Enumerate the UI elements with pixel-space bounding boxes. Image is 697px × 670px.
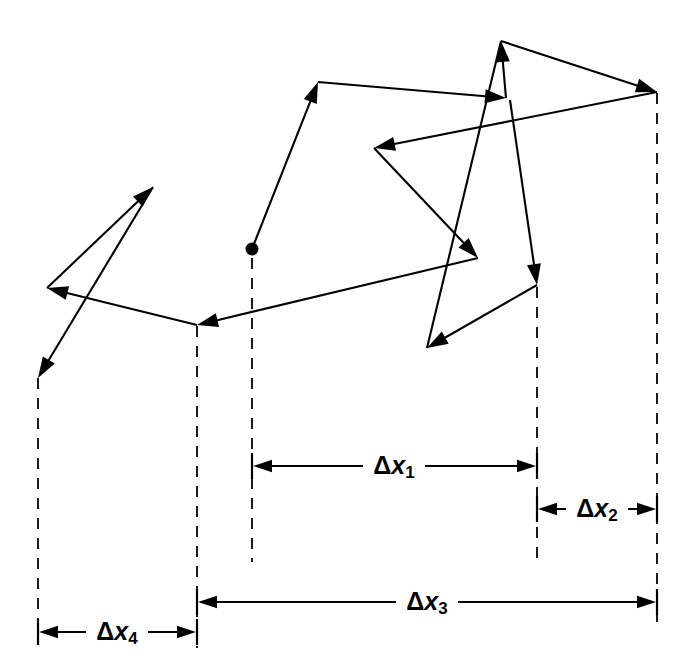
walk-segment-7-arrowhead: [197, 313, 219, 327]
dimension-delta-x4-label-delta: Δ: [96, 617, 114, 645]
walk-segment-12: [435, 285, 537, 344]
dimension-delta-x2-label-sub: 2: [608, 506, 617, 525]
walk-segment-7: [206, 258, 478, 323]
walk-segment-1: [252, 90, 315, 249]
random-walk-diagram: Δx1Δx2Δx3Δx4: [0, 0, 697, 670]
walk-segment-6: [374, 148, 472, 251]
walk-segment-10-arrowhead: [38, 356, 55, 378]
walk-segment-1-arrowhead: [304, 82, 318, 104]
dimension-delta-x3-label-sub: 3: [438, 599, 447, 618]
dimension-delta-x4-label: Δx4: [96, 617, 138, 649]
walk-segment-11: [510, 100, 536, 276]
dimension-delta-x4-label-sub: 4: [128, 629, 138, 648]
walk-segment-2: [318, 82, 497, 97]
dimension-delta-x2-label-delta: Δ: [576, 494, 594, 522]
dimension-labels-group: Δx1Δx2Δx3Δx4: [96, 451, 617, 649]
random-walk-path-group: [38, 41, 657, 378]
walk-segment-9: [47, 193, 146, 288]
walk-segment-4-arrowhead: [635, 79, 657, 92]
walk-segment-11-arrowhead: [527, 263, 541, 285]
walk-segment-13: [427, 41, 501, 348]
dimension-delta-x2-label-var: x: [592, 494, 609, 522]
figure-container: Δx1Δx2Δx3Δx4: [0, 0, 697, 670]
walk-segment-5: [383, 92, 657, 146]
dimension-lines-group: [38, 453, 657, 645]
walk-segment-10: [43, 187, 153, 370]
start-point-marker: [246, 243, 259, 256]
dimension-delta-x3-label-var: x: [422, 587, 439, 615]
dimension-delta-x1-label-var: x: [389, 451, 406, 479]
walk-segment-4: [501, 41, 648, 89]
dimension-delta-x1-arrowhead-left: [253, 460, 272, 472]
dimension-delta-x1-label-delta: Δ: [373, 451, 391, 479]
dimension-delta-x2-arrowhead-right: [637, 503, 656, 515]
guide-lines-group: [38, 93, 657, 648]
dimension-delta-x1-label: Δx1: [373, 451, 414, 483]
dimension-delta-x3-arrowhead-right: [637, 596, 656, 608]
dimension-delta-x3-label-delta: Δ: [406, 587, 424, 615]
walk-segment-8-arrowhead: [47, 286, 69, 300]
dimension-delta-x2-arrowhead-left: [538, 503, 557, 515]
dimension-delta-x3-label: Δx3: [406, 587, 447, 619]
dimension-delta-x4-label-var: x: [112, 617, 129, 645]
dimension-delta-x1-arrowhead-right: [517, 460, 536, 472]
walk-segment-8: [56, 290, 197, 325]
dimension-delta-x1-label-sub: 1: [405, 463, 414, 482]
dimension-delta-x4-arrowhead-right: [177, 626, 196, 638]
dimension-delta-x3-arrowhead-left: [198, 596, 217, 608]
dimension-delta-x4-arrowhead-left: [39, 626, 58, 638]
walk-segment-5-arrowhead: [374, 137, 396, 151]
dimension-delta-x2-label: Δx2: [576, 494, 617, 526]
